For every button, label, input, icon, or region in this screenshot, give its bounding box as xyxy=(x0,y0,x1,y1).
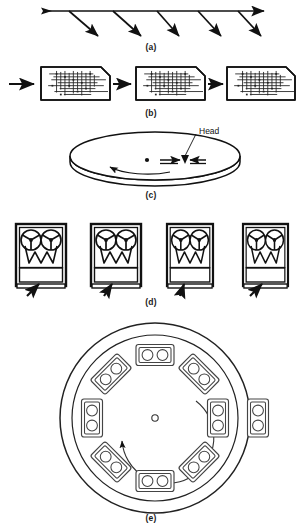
panel-e-tape-cartridge-carousel xyxy=(0,313,302,523)
panel-a-branch-arrows xyxy=(69,11,261,36)
panel-a-main-arrow xyxy=(41,7,264,14)
carousel-slot-right[interactable] xyxy=(208,399,229,437)
tape-drive-2 xyxy=(91,224,141,288)
carousel-hub xyxy=(152,415,158,421)
chip-3 xyxy=(227,67,295,100)
head-label: Head xyxy=(199,126,219,136)
tape-drive-4 xyxy=(243,224,288,288)
caption-c: (c) xyxy=(0,190,302,200)
caption-e: (e) xyxy=(0,513,302,523)
panel-d-tape-drive-bank xyxy=(0,208,302,300)
carousel-slot-left[interactable] xyxy=(82,399,103,437)
caption-b: (b) xyxy=(0,108,302,118)
panel-b-chip-die-sequence xyxy=(0,60,302,110)
panel-c-disk-platter xyxy=(0,124,302,192)
platter-top-surface xyxy=(70,132,240,180)
chip-2 xyxy=(136,67,205,100)
carousel-slot-bottom[interactable] xyxy=(136,471,174,492)
carousel-slot-top[interactable] xyxy=(136,345,174,366)
tape-drive-3 xyxy=(167,224,213,288)
tape-drive-1 xyxy=(16,224,66,288)
caption-d: (d) xyxy=(0,297,302,307)
spindle-dot xyxy=(145,158,149,162)
chip-1 xyxy=(41,67,110,100)
external-cartridge[interactable] xyxy=(248,399,269,437)
figure-root: (a) xyxy=(0,0,302,532)
caption-a: (a) xyxy=(0,42,302,52)
